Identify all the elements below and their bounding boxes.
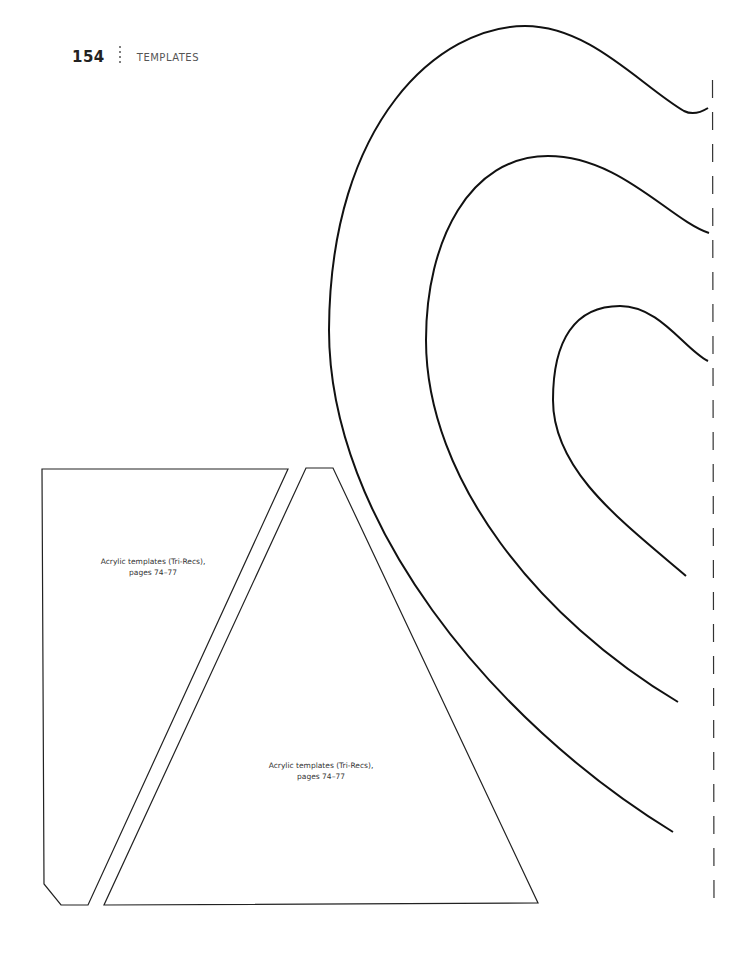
caption-side-template: Acrylic templates (Tri-Recs), pages 74–7… bbox=[78, 556, 228, 578]
tri-rec-triangle-template-outline bbox=[104, 468, 538, 905]
dashed-fold-line bbox=[713, 80, 715, 908]
caption-line: Acrylic templates (Tri-Recs), bbox=[246, 760, 396, 771]
caption-pages: pages 74–77 bbox=[246, 771, 396, 782]
inner-arc-curve bbox=[553, 306, 708, 576]
caption-triangle-template: Acrylic templates (Tri-Recs), pages 74–7… bbox=[246, 760, 396, 782]
middle-arc-curve bbox=[426, 156, 709, 702]
caption-line: Acrylic templates (Tri-Recs), bbox=[78, 556, 228, 567]
template-artwork bbox=[0, 0, 733, 955]
outer-arc-curve bbox=[329, 26, 708, 832]
caption-pages: pages 74–77 bbox=[78, 567, 228, 578]
tri-rec-side-template-outline bbox=[42, 469, 288, 905]
